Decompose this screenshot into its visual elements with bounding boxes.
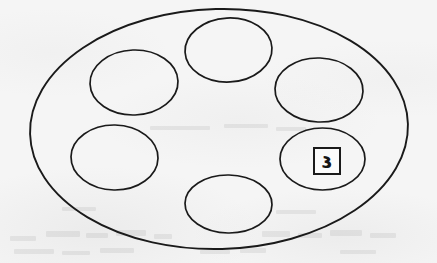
inner-ellipse-bottom bbox=[185, 174, 273, 234]
inner-ellipse-upper-right bbox=[274, 56, 364, 123]
inner-ellipse-top bbox=[183, 16, 273, 84]
shape-group bbox=[27, 4, 411, 254]
outer-ellipse bbox=[27, 4, 411, 254]
numeral-label-box: ٤ bbox=[313, 147, 341, 175]
numeral-label-text: ٤ bbox=[321, 152, 333, 171]
figure-canvas: ٤ bbox=[0, 0, 437, 263]
inner-ellipse-upper-left bbox=[89, 48, 179, 116]
ellipse-diagram-svg bbox=[0, 0, 437, 263]
inner-ellipse-lower-left bbox=[70, 124, 158, 191]
